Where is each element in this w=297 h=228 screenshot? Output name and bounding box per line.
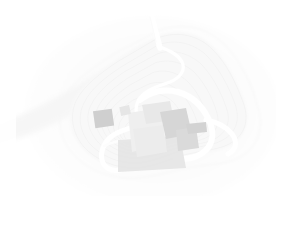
topographic-map-graphic[interactable] — [0, 0, 297, 228]
fade-wash — [0, 0, 297, 228]
map-canvas[interactable]: Heavily washed-out grayscale topographic… — [0, 0, 297, 228]
